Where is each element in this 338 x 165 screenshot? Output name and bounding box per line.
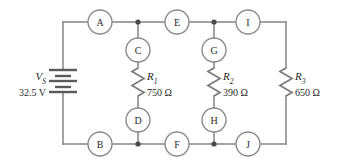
r1-symbol-subscript: 1	[154, 77, 158, 86]
source-label: VS 32.5 V	[0, 66, 46, 99]
node-f: F	[165, 132, 189, 156]
resistor-r2-label: R2 390 Ω	[223, 66, 248, 99]
r3-symbol-letter: R	[295, 70, 302, 82]
r1-symbol: R1	[147, 66, 172, 87]
node-g-label: G	[210, 45, 217, 56]
resistor-r3-symbol	[280, 68, 292, 96]
r1-symbol-letter: R	[147, 70, 154, 82]
resistor-r1-label: R1 750 Ω	[147, 66, 172, 99]
node-a-label: A	[96, 17, 104, 28]
source-symbol-subscript: S	[42, 77, 46, 86]
node-i-label: I	[246, 17, 249, 28]
junction-top-r2-dot	[211, 19, 216, 24]
source-value: 32.5 V	[0, 87, 46, 99]
node-e: E	[165, 10, 189, 34]
r2-symbol: R2	[223, 66, 248, 87]
node-b-label: B	[97, 139, 104, 150]
circuit-diagram: A E I C G D H	[0, 0, 338, 165]
r2-symbol-letter: R	[223, 70, 230, 82]
node-f-label: F	[174, 139, 180, 150]
node-j-label: J	[246, 139, 250, 150]
node-c: C	[126, 38, 150, 62]
resistor-r2-symbol	[208, 68, 220, 96]
r3-symbol: R3	[295, 66, 320, 87]
junction-top-r1-dot	[135, 19, 140, 24]
resistor-r3-label: R3 650 Ω	[295, 66, 320, 99]
junction-bottom-r1-dot	[135, 141, 140, 146]
resistor-r1-symbol	[132, 68, 144, 96]
node-g: G	[202, 38, 226, 62]
r3-symbol-subscript: 3	[302, 77, 306, 86]
r2-value: 390 Ω	[223, 87, 248, 99]
source-symbol: VS	[0, 66, 46, 87]
node-j: J	[236, 132, 260, 156]
node-d: D	[126, 108, 150, 132]
wire-network	[63, 22, 286, 144]
node-h: H	[202, 108, 226, 132]
node-b: B	[88, 132, 112, 156]
node-a: A	[88, 10, 112, 34]
r1-value: 750 Ω	[147, 87, 172, 99]
node-h-label: H	[210, 115, 217, 126]
r3-value: 650 Ω	[295, 87, 320, 99]
junction-bottom-r2-dot	[211, 141, 216, 146]
battery-symbol	[49, 70, 77, 92]
node-e-label: E	[174, 17, 180, 28]
r2-symbol-subscript: 2	[230, 77, 234, 86]
node-i: I	[236, 10, 260, 34]
node-c-label: C	[135, 45, 142, 56]
node-d-label: D	[134, 115, 141, 126]
